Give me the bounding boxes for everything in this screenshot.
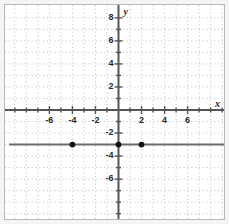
y-tick-label: -6 — [105, 174, 113, 183]
plotted-point[interactable] — [116, 142, 122, 148]
x-axis-label: x — [215, 99, 220, 109]
x-tick-label: 4 — [162, 116, 167, 125]
coordinate-plane: -6-4-22468642-2-4-6yx — [5, 5, 224, 219]
x-tick-label: -4 — [68, 116, 76, 125]
y-tick-label: 4 — [108, 59, 113, 68]
y-tick-label: -2 — [105, 128, 113, 137]
x-tick-label: 2 — [139, 116, 144, 125]
y-axis-label: y — [124, 7, 128, 17]
x-tick-label: -6 — [45, 116, 53, 125]
data-layer — [5, 5, 225, 220]
y-tick-label: -4 — [105, 151, 113, 160]
y-tick-label: 8 — [108, 13, 113, 22]
plotted-point[interactable] — [70, 142, 76, 148]
plotted-point[interactable] — [139, 142, 145, 148]
x-tick-label: 6 — [185, 116, 190, 125]
screenshot-stage: -6-4-22468642-2-4-6yx — [0, 0, 229, 224]
graph-frame: -6-4-22468642-2-4-6yx — [4, 4, 225, 220]
y-tick-label: 2 — [108, 82, 113, 91]
y-tick-label: 6 — [108, 36, 113, 45]
x-tick-label: -2 — [91, 116, 99, 125]
